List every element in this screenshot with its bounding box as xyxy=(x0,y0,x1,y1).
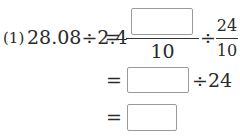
fraction-bar-2 xyxy=(216,38,238,39)
equals-sign-3: = xyxy=(106,106,122,128)
numerator-2: 24 xyxy=(216,17,238,35)
problem-label: (1) xyxy=(3,27,24,49)
fraction-bar-1 xyxy=(126,38,199,39)
denominator-1: 10 xyxy=(126,40,199,62)
divide-operator-1: ÷ xyxy=(200,26,216,48)
answer-box-2[interactable] xyxy=(127,67,189,93)
answer-box-3[interactable] xyxy=(127,104,177,131)
equals-sign-2: = xyxy=(106,69,122,91)
divide-24-text: ÷24 xyxy=(192,69,232,91)
numerator-input-box[interactable] xyxy=(131,8,193,35)
equals-sign-1: = xyxy=(105,26,121,48)
denominator-2: 10 xyxy=(216,42,238,60)
